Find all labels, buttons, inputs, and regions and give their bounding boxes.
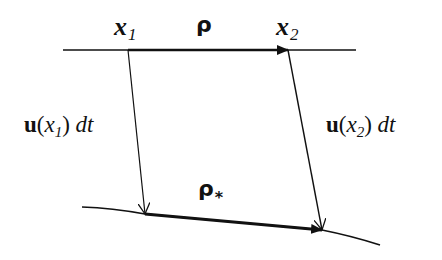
label-x2: x2 <box>276 14 299 40</box>
vector-transport-diagram: x1 ρ x2 u(x1) dt u(x2) dt ρ* <box>0 0 442 260</box>
left-displacement-arrow <box>128 50 145 214</box>
var-sub: 1 <box>55 124 63 140</box>
u-vector: u <box>326 112 339 137</box>
label-rho: ρ <box>196 14 212 36</box>
u-vector: u <box>24 112 37 137</box>
dt: dt <box>372 112 396 137</box>
label-x1-main: x <box>114 12 127 41</box>
label-x2-sub: 2 <box>290 25 299 44</box>
paren-close: ) <box>62 112 70 137</box>
var-x: x <box>44 112 54 137</box>
dt: dt <box>70 112 94 137</box>
label-right-displacement: u(x2) dt <box>326 113 396 136</box>
label-x1: x1 <box>114 14 137 40</box>
label-x1-sub: 1 <box>128 25 137 44</box>
bottom-curve <box>82 207 380 245</box>
var-x: x <box>346 112 356 137</box>
label-rho-star-main: ρ <box>198 176 214 201</box>
paren-close: ) <box>364 112 372 137</box>
label-left-displacement: u(x1) dt <box>24 113 94 136</box>
label-rho-star: ρ* <box>198 178 223 200</box>
label-rho-star-sub: * <box>215 188 223 207</box>
right-displacement-arrow <box>288 50 322 230</box>
rho-star-arrow <box>145 214 322 230</box>
var-sub: 2 <box>357 124 365 140</box>
label-x2-main: x <box>276 12 289 41</box>
